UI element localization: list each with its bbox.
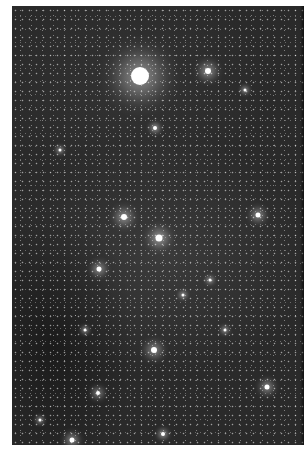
- star: [244, 89, 247, 92]
- star: [153, 126, 157, 130]
- star: [59, 149, 62, 152]
- star: [121, 214, 127, 220]
- star: [161, 432, 165, 436]
- star: [84, 329, 87, 332]
- faint-star-texture: [12, 6, 304, 445]
- star: [265, 385, 270, 390]
- star: [256, 213, 261, 218]
- star: [182, 294, 185, 297]
- star: [151, 347, 157, 353]
- star: [96, 391, 100, 395]
- star: [131, 67, 149, 85]
- right-edge-shadow: [300, 6, 304, 445]
- star: [209, 279, 212, 282]
- star: [156, 235, 163, 242]
- star: [224, 329, 227, 332]
- star: [205, 68, 211, 74]
- star: [70, 438, 75, 443]
- star: [39, 419, 42, 422]
- star: [97, 267, 102, 272]
- star-field-photo: [12, 6, 304, 445]
